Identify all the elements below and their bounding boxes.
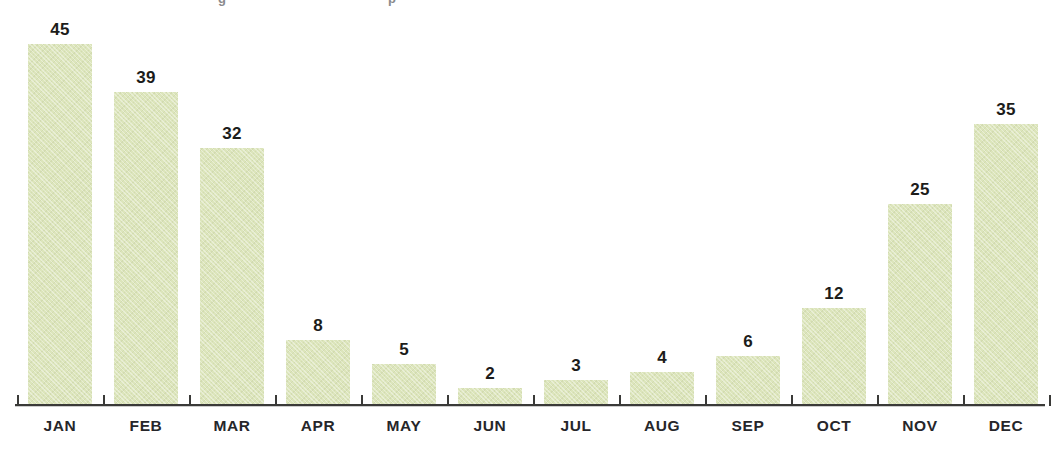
axis-tick	[447, 395, 449, 406]
bar-value-label: 12	[802, 284, 866, 304]
axis-tick	[963, 395, 965, 406]
bar-value-label: 8	[286, 316, 350, 336]
axis-tick	[877, 395, 879, 406]
axis-tick	[103, 395, 105, 406]
bar-group: 32	[200, 118, 264, 404]
bar-group: 45	[28, 14, 92, 404]
bar-group: 6	[716, 326, 780, 404]
axis-tick	[189, 395, 191, 406]
category-label-may: MAY	[372, 417, 436, 435]
bar-value-label: 4	[630, 348, 694, 368]
bar-value-label: 6	[716, 332, 780, 352]
bar	[630, 372, 694, 404]
category-label-mar: MAR	[200, 417, 264, 435]
bar	[28, 44, 92, 404]
category-label-dec: DEC	[974, 417, 1038, 435]
axis-tick	[275, 395, 277, 406]
bar-group: 12	[802, 278, 866, 404]
bar-chart-figure: g p 453932852346122535 JANFEBMARAPRMAYJU…	[0, 0, 1058, 452]
category-label-sep: SEP	[716, 417, 780, 435]
bar	[372, 364, 436, 404]
category-label-nov: NOV	[888, 417, 952, 435]
bar-value-label: 32	[200, 124, 264, 144]
axis-tick	[791, 395, 793, 406]
bar	[200, 148, 264, 404]
category-label-aug: AUG	[630, 417, 694, 435]
bar-value-label: 39	[114, 68, 178, 88]
bar-value-label: 45	[28, 20, 92, 40]
category-label-feb: FEB	[114, 417, 178, 435]
bar-group: 39	[114, 62, 178, 404]
category-label-jul: JUL	[544, 417, 608, 435]
axis-tick	[361, 395, 363, 406]
bar-group: 8	[286, 310, 350, 404]
bar-value-label: 2	[458, 364, 522, 384]
category-axis-line	[15, 404, 1045, 406]
bar-group: 5	[372, 334, 436, 404]
bar	[114, 92, 178, 404]
bar-group: 35	[974, 94, 1038, 404]
bar	[458, 388, 522, 404]
category-label-jun: JUN	[458, 417, 522, 435]
axis-tick	[619, 395, 621, 406]
bar-value-label: 3	[544, 356, 608, 376]
axis-tick	[17, 395, 19, 406]
bar-value-label: 5	[372, 340, 436, 360]
plot-area: 453932852346122535 JANFEBMARAPRMAYJUNJUL…	[0, 0, 1058, 452]
bar	[888, 204, 952, 404]
bar	[802, 308, 866, 404]
bar-group: 3	[544, 350, 608, 404]
category-label-jan: JAN	[28, 417, 92, 435]
bar	[974, 124, 1038, 404]
bar-value-label: 25	[888, 180, 952, 200]
bar	[716, 356, 780, 404]
bar-group: 25	[888, 174, 952, 404]
bar	[286, 340, 350, 404]
axis-tick	[533, 395, 535, 406]
bar-group: 2	[458, 358, 522, 404]
category-label-apr: APR	[286, 417, 350, 435]
axis-tick	[1049, 395, 1051, 406]
axis-tick	[705, 395, 707, 406]
bar-value-label: 35	[974, 100, 1038, 120]
bar-group: 4	[630, 342, 694, 404]
bar	[544, 380, 608, 404]
category-label-oct: OCT	[802, 417, 866, 435]
